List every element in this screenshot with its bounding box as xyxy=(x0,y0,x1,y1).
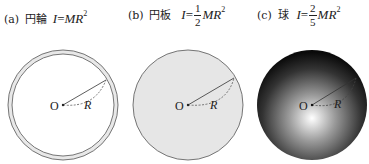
center-point xyxy=(311,104,313,106)
center-label: O xyxy=(175,99,184,113)
ring-figure xyxy=(8,50,118,160)
radius-label: R xyxy=(209,98,218,112)
radius-label: R xyxy=(83,98,92,112)
figures-canvas: O R O R O R xyxy=(0,0,369,164)
disk-figure xyxy=(133,50,243,160)
center-label: O xyxy=(50,99,59,113)
sphere-figure xyxy=(257,50,367,160)
center-label: O xyxy=(299,99,308,113)
center-point xyxy=(187,104,189,106)
radius-label: R xyxy=(333,97,342,111)
center-point xyxy=(62,104,64,106)
